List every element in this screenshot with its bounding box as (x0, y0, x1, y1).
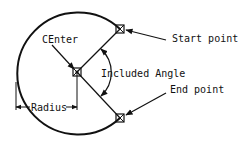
center-label: CEnter (42, 34, 78, 45)
end-point-marker-icon (116, 114, 124, 122)
start-point-marker-icon (116, 25, 124, 33)
radius-line-start (77, 29, 120, 72)
start-leader (126, 30, 166, 40)
start-point-label: Start point (172, 33, 238, 44)
end-leader (126, 93, 166, 115)
arc-diagram: CEnter Start point Included Angle End po… (0, 0, 251, 147)
center-leader (52, 45, 74, 69)
end-point-label: End point (170, 84, 224, 95)
radius-label: Radius (31, 102, 67, 113)
included-angle-label: Included Angle (101, 68, 185, 79)
